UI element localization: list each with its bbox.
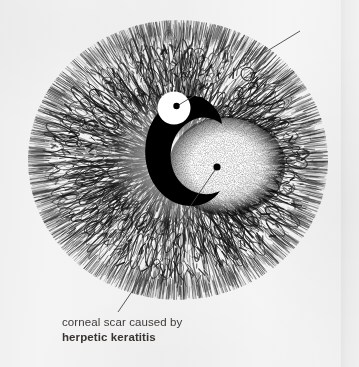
light-reflection-marker-dot <box>173 103 179 109</box>
corneal-scar-marker-dot <box>213 163 220 170</box>
cornea-illustration <box>0 0 359 367</box>
light-reflection-highlight <box>158 92 191 125</box>
illustration-page: light reflection corneal scar caused by … <box>0 0 359 367</box>
label-corneal-scar-line2: herpetic keratitis <box>62 331 156 345</box>
label-corneal-scar-line1: corneal scar caused by <box>62 316 182 330</box>
